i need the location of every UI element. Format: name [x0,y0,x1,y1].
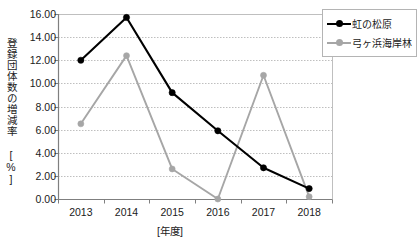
chart-legend: 虹の松原 弓ヶ浜海岸林 [322,9,417,57]
x-axis-tick-label: 2015 [150,207,194,218]
x-axis-tick-label: 2013 [59,207,103,218]
x-axis-tick-label: 2016 [196,207,240,218]
x-axis-title: [年度] [0,223,340,238]
legend-marker-series-2 [326,37,352,49]
legend-item-series-2: 弓ヶ浜海岸林 [326,33,413,52]
x-axis-tick-label: 2017 [242,207,286,218]
legend-label-series-1: 虹の松原 [352,16,392,31]
legend-marker-series-1 [326,18,352,30]
x-axis-tick-label: 2018 [287,207,331,218]
legend-item-series-1: 虹の松原 [326,14,413,33]
legend-label-series-2: 弓ヶ浜海岸林 [352,35,412,50]
x-axis-tick-label: 2014 [105,207,149,218]
line-chart: 登録団体数の増減率 [%] 0.002.004.006.008.0010.001… [0,0,419,245]
